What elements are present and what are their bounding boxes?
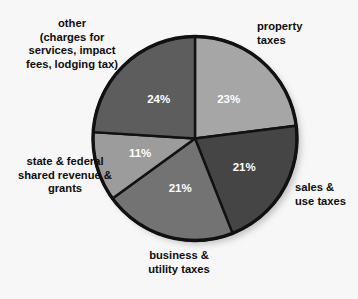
pie-slice-percent: 23% [217, 93, 240, 105]
slice-label-business-utility-taxes: business & utility taxes [124, 249, 234, 276]
slice-label-state-federal: state & federal shared revenue & grants [2, 155, 128, 196]
pie-chart: 23%21%21%11%24% other (charges for servi… [0, 0, 358, 299]
slice-label-sales-use-taxes: sales & use taxes [295, 181, 357, 208]
pie-slice-percent: 11% [129, 147, 151, 159]
slice-label-property-taxes: property taxes [257, 20, 353, 47]
pie-slice-percent: 21% [169, 182, 192, 194]
pie-slice-percent: 24% [147, 93, 170, 105]
slice-label-other: other (charges for services, impact fees… [6, 17, 138, 72]
pie-slice-percent: 21% [233, 161, 256, 173]
